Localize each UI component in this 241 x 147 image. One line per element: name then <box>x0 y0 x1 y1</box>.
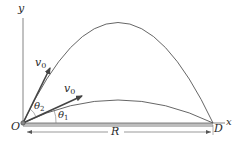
y-axis-label: y <box>17 2 25 15</box>
low-velocity-vector <box>23 96 82 123</box>
origin-point <box>21 121 25 125</box>
low-trajectory <box>23 100 213 123</box>
high-velocity-vector <box>23 68 50 123</box>
high-trajectory <box>23 23 213 124</box>
range-label: R <box>110 125 119 138</box>
high-velocity-label: v0 <box>35 56 46 70</box>
x-axis-label: x <box>226 116 232 127</box>
theta1-arc <box>54 110 56 123</box>
low-velocity-label: v0 <box>64 82 75 96</box>
origin-label: O <box>11 120 20 133</box>
endpoint-label: D <box>213 122 223 135</box>
projectile-diagram: y x O D R v0 v0 θ2 θ1 <box>0 0 241 147</box>
theta1-label: θ1 <box>58 109 69 122</box>
theta2-label: θ2 <box>34 100 45 113</box>
